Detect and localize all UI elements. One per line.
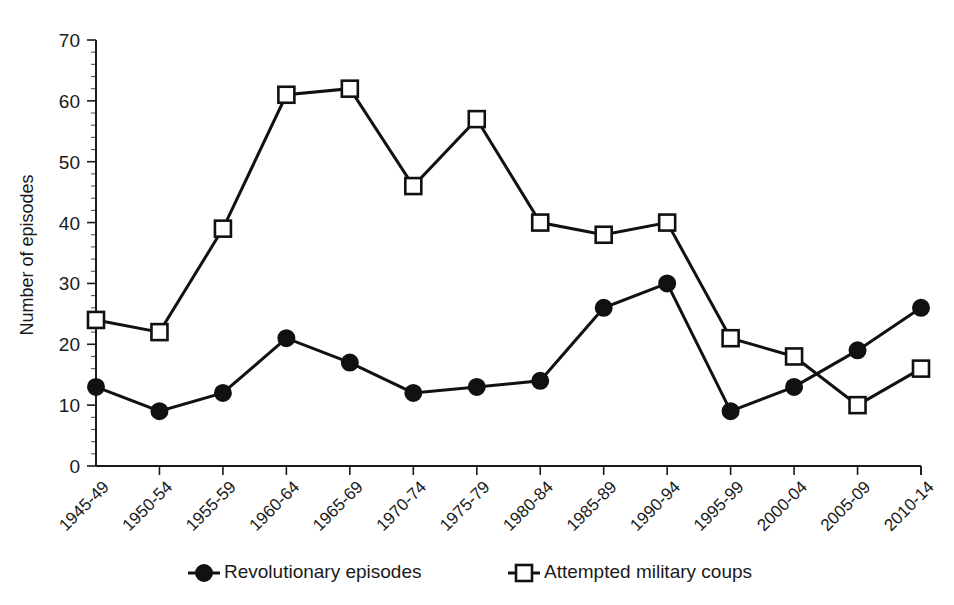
data-point-marker [532, 373, 548, 389]
data-point-marker [278, 87, 294, 103]
y-axis-tick-label: 30 [59, 273, 80, 294]
data-point-marker [723, 403, 739, 419]
data-point-marker [596, 227, 612, 243]
y-axis-tick-label: 10 [59, 395, 80, 416]
y-axis-tick-label: 40 [59, 213, 80, 234]
legend-label-1: Revolutionary episodes [224, 561, 422, 582]
data-point-marker [723, 330, 739, 346]
data-point-marker [88, 312, 104, 328]
data-point-marker [659, 275, 675, 291]
data-point-marker [215, 385, 231, 401]
y-axis-title: Number of episodes [17, 174, 37, 335]
data-point-marker [342, 81, 358, 97]
data-point-marker [786, 379, 802, 395]
data-point-marker [850, 342, 866, 358]
y-axis-title-label: Number of episodes [17, 174, 37, 335]
legend-label-2: Attempted military coups [544, 561, 752, 582]
data-point-marker [215, 221, 231, 237]
data-point-marker [278, 330, 294, 346]
data-point-marker [659, 215, 675, 231]
line-chart: Number of episodes 010203040506070 1945-… [0, 0, 954, 605]
legend-marker-1 [196, 565, 212, 581]
data-point-marker [405, 178, 421, 194]
data-point-marker [151, 403, 167, 419]
chart-container: Number of episodes 010203040506070 1945-… [0, 0, 954, 605]
data-point-marker [913, 361, 929, 377]
data-point-marker [151, 324, 167, 340]
y-axis-tick-label: 0 [69, 456, 80, 477]
data-point-marker [913, 300, 929, 316]
y-axis-tick-label: 60 [59, 91, 80, 112]
data-point-marker [786, 348, 802, 364]
legend-marker-2 [516, 565, 532, 581]
y-axis-tick-label: 70 [59, 30, 80, 51]
y-axis-tick-label: 20 [59, 334, 80, 355]
y-axis-tick-label: 50 [59, 152, 80, 173]
data-point-marker [88, 379, 104, 395]
data-point-marker [405, 385, 421, 401]
data-point-marker [850, 397, 866, 413]
data-point-marker [596, 300, 612, 316]
data-point-marker [342, 355, 358, 371]
data-point-marker [532, 215, 548, 231]
data-point-marker [469, 111, 485, 127]
data-point-marker [469, 379, 485, 395]
